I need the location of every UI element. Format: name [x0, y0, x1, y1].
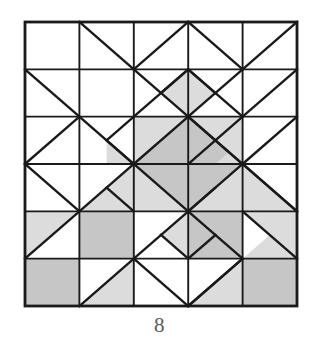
row5-col3-left-corner	[134, 211, 161, 258]
row5-col2-square-shape	[79, 211, 133, 258]
r1c5-diag	[243, 22, 297, 69]
r3c2-diag-b	[107, 117, 134, 141]
row6-col3-left-triangle	[134, 259, 161, 306]
row6-col1-square-shape	[25, 259, 79, 306]
r3c1-diag-a	[25, 117, 79, 164]
r2c1-diag	[25, 69, 79, 116]
figure-caption: 8	[0, 312, 319, 338]
r2c5-diag	[243, 69, 297, 116]
r1c4-diag	[188, 22, 242, 69]
r1c2-diag	[79, 22, 133, 69]
r3c5-diag-a	[243, 117, 297, 164]
row6-col5-square-shape	[243, 259, 297, 306]
r4c1-diag	[25, 164, 79, 211]
figure-container: 8	[0, 0, 319, 356]
quilt-block-diagram	[0, 0, 319, 356]
r1c3-diag	[134, 22, 188, 69]
